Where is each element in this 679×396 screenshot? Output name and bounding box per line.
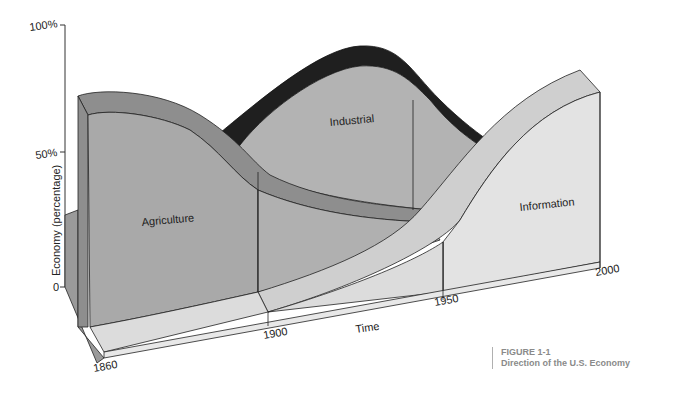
agriculture-left-face [78,96,88,327]
y-axis-label: Economy (percentage) [50,165,62,276]
figure-title: Direction of the U.S. Economy [501,358,630,369]
economy-chart: 100% 50% 0 Economy (percentage) Agricult… [0,0,679,396]
figure-caption: FIGURE 1-1 Direction of the U.S. Economy [492,347,630,369]
x-axis-label: Time [355,320,380,335]
figure-number: FIGURE 1-1 [501,347,630,358]
y-tick-0: 0 [53,281,59,293]
y-tick-50: 50% [35,146,59,161]
y-tick-100: 100% [29,17,59,33]
